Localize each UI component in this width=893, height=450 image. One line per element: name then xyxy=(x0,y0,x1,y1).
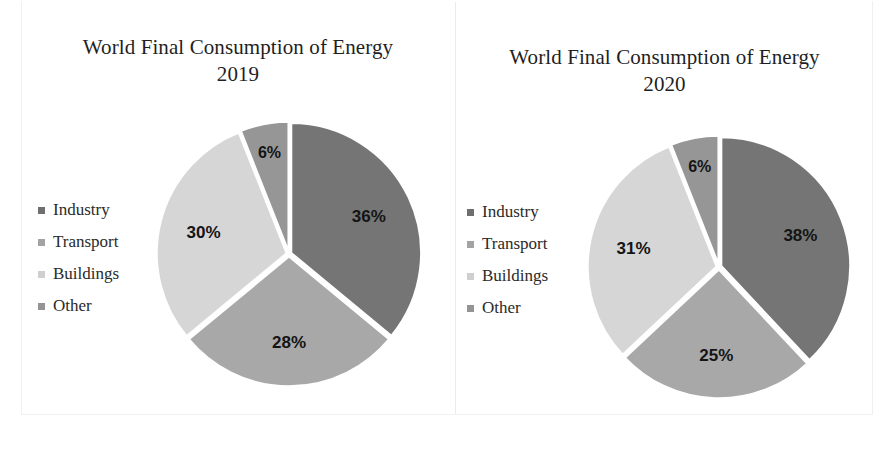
legend-label-buildings: Buildings xyxy=(482,260,548,292)
chart-panel-2020: World Final Consumption of Energy2020 In… xyxy=(456,0,873,415)
legend-label-industry: Industry xyxy=(53,194,110,226)
pie-label-other: 6% xyxy=(688,158,711,175)
pie-label-buildings: 31% xyxy=(617,239,651,258)
legend-item-other[interactable]: Other xyxy=(467,292,548,324)
legend-swatch-other xyxy=(38,303,45,310)
legend-2019: Industry Transport Buildings Other xyxy=(38,194,119,322)
legend-swatch-industry xyxy=(467,209,474,216)
pie-label-transport: 28% xyxy=(272,333,306,352)
legend-swatch-buildings xyxy=(38,271,45,278)
legend-label-other: Other xyxy=(53,290,92,322)
chart-title-2020: World Final Consumption of Energy2020 xyxy=(456,44,873,98)
legend-item-other[interactable]: Other xyxy=(38,290,119,322)
legend-swatch-other xyxy=(467,305,474,312)
legend-label-industry: Industry xyxy=(482,196,539,228)
chart-title-line1: World Final Consumption of Energy xyxy=(509,45,819,69)
chart-title-line1: World Final Consumption of Energy xyxy=(83,35,393,59)
legend-2020: Industry Transport Buildings Other xyxy=(467,196,548,324)
legend-label-buildings: Buildings xyxy=(53,258,119,290)
legend-swatch-buildings xyxy=(467,273,474,280)
pie-svg-2019: 36%28%30%6% xyxy=(152,112,428,402)
pie-label-buildings: 30% xyxy=(187,223,221,242)
pie-label-transport: 25% xyxy=(699,346,733,365)
chart-title-2019: World Final Consumption of Energy2019 xyxy=(21,34,455,88)
legend-item-buildings[interactable]: Buildings xyxy=(38,258,119,290)
legend-item-buildings[interactable]: Buildings xyxy=(467,260,548,292)
pie-label-other: 6% xyxy=(258,144,281,161)
pie-label-industry: 38% xyxy=(783,226,817,245)
pie-chart-2020: 38%25%31%6% xyxy=(582,125,858,415)
legend-swatch-transport xyxy=(38,239,45,246)
legend-item-transport[interactable]: Transport xyxy=(467,228,548,260)
pie-label-industry: 36% xyxy=(352,207,386,226)
legend-swatch-transport xyxy=(467,241,474,248)
legend-swatch-industry xyxy=(38,207,45,214)
figure-canvas: World Final Consumption of Energy2019 In… xyxy=(0,0,893,450)
legend-label-other: Other xyxy=(482,292,521,324)
legend-label-transport: Transport xyxy=(53,226,119,258)
legend-label-transport: Transport xyxy=(482,228,548,260)
pie-chart-2019: 36%28%30%6% xyxy=(152,112,428,402)
legend-item-transport[interactable]: Transport xyxy=(38,226,119,258)
legend-item-industry[interactable]: Industry xyxy=(467,196,548,228)
chart-title-line2: 2019 xyxy=(217,62,259,86)
pie-svg-2020: 38%25%31%6% xyxy=(582,125,858,415)
chart-title-line2: 2020 xyxy=(643,72,685,96)
chart-panel-2019: World Final Consumption of Energy2019 In… xyxy=(21,0,455,415)
legend-item-industry[interactable]: Industry xyxy=(38,194,119,226)
